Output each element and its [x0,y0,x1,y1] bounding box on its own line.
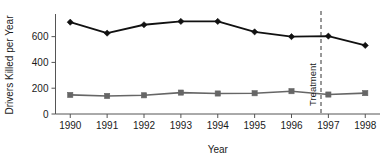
data-point-marker-square [289,89,294,94]
data-point-marker-diamond [325,33,331,39]
data-point-marker-square [215,91,220,96]
data-point-marker-square [326,92,331,97]
data-point-marker-diamond [362,42,368,48]
data-point-marker-square [68,92,73,97]
data-point-marker-diamond [215,18,221,24]
data-series-group [67,18,368,98]
x-axis-title: Year [208,144,229,155]
x-axis-tick-label: 1993 [170,120,193,131]
data-point-marker-square [105,93,110,98]
y-axis-tick-label: 400 [32,57,49,68]
data-point-marker-square [252,91,257,96]
data-point-marker-diamond [67,19,73,25]
x-axis-tick-label: 1997 [317,120,340,131]
data-point-marker-diamond [252,29,258,35]
x-axis-tick-label: 1998 [354,120,377,131]
x-axis-tick-label: 1994 [207,120,230,131]
data-point-marker-diamond [288,34,294,40]
data-point-marker-diamond [178,18,184,24]
data-point-marker-square [363,91,368,96]
data-point-marker-diamond [104,30,110,36]
annotations-group: Treatment [307,11,321,115]
axes: 0200400600199019911992199319941995199619… [32,14,380,131]
x-axis-tick-label: 1990 [59,120,82,131]
data-point-marker-square [178,90,183,95]
chart-container: 0200400600199019911992199319941995199619… [0,0,387,157]
treatment-annotation-label: Treatment [307,63,318,106]
x-axis-tick-label: 1995 [244,120,267,131]
y-axis-tick-label: 0 [43,109,49,120]
y-axis-tick-label: 600 [32,31,49,42]
data-point-marker-diamond [141,22,147,28]
x-axis-tick-label: 1991 [96,120,119,131]
x-axis-tick-label: 1996 [280,120,303,131]
y-axis-title: Drivers Killed per Year [4,15,15,115]
line-chart: 0200400600199019911992199319941995199619… [0,0,387,157]
y-axis-tick-label: 200 [32,83,49,94]
x-axis-tick-label: 1992 [133,120,156,131]
data-point-marker-square [141,93,146,98]
